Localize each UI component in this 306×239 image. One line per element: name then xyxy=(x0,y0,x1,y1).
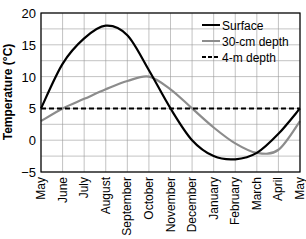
y-tick-label: 0 xyxy=(29,133,36,148)
y-tick-label: 5 xyxy=(29,101,36,116)
x-tick-label: July xyxy=(77,177,91,198)
x-tick-label: February xyxy=(228,177,242,225)
x-tick-label: December xyxy=(185,177,199,232)
x-tick-label: September xyxy=(120,177,134,236)
x-tick-label: May xyxy=(293,177,306,200)
x-tick-label: June xyxy=(56,177,70,203)
y-axis-label: Temperature (°C) xyxy=(1,44,15,141)
chart-canvas: −505101520 MayJuneJulyAugustSeptemberOct… xyxy=(0,0,306,239)
y-axis-ticks: −505101520 xyxy=(21,6,36,180)
x-tick-label: November xyxy=(164,177,178,232)
x-tick-label: April xyxy=(271,177,285,201)
y-tick-label: 20 xyxy=(22,6,36,21)
x-tick-label: May xyxy=(34,177,48,200)
x-axis-ticks: MayJuneJulyAugustSeptemberOctoberNovembe… xyxy=(34,176,306,235)
x-tick-label: August xyxy=(99,176,113,214)
x-tick-label: October xyxy=(142,177,156,220)
temperature-chart: −505101520 MayJuneJulyAugustSeptemberOct… xyxy=(0,0,306,239)
y-tick-label: 15 xyxy=(22,38,36,53)
legend-label: Surface xyxy=(222,19,264,33)
legend: Surface30-cm depth4-m depth xyxy=(202,19,289,65)
y-tick-label: 10 xyxy=(22,70,36,85)
legend-label: 30-cm depth xyxy=(222,35,289,49)
x-tick-label: January xyxy=(207,177,221,220)
x-tick-label: March xyxy=(250,177,264,210)
legend-label: 4-m depth xyxy=(222,51,276,65)
